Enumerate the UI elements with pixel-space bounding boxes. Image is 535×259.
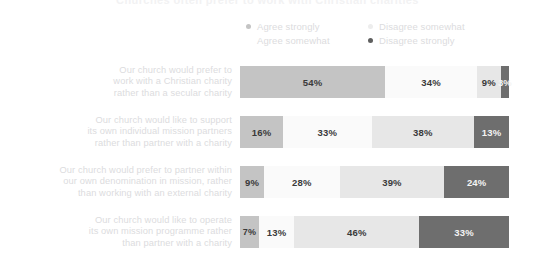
chart-row: Our church would prefer to work with a C… xyxy=(0,57,535,107)
legend-item-agree-strongly[interactable]: Agree strongly xyxy=(246,19,368,33)
bar-segment-value: 28% xyxy=(292,177,312,188)
row-label: Our church would like to support its own… xyxy=(0,115,240,150)
legend-label: Disagree somewhat xyxy=(379,21,465,32)
row-label: Our church would prefer to partner withi… xyxy=(0,165,240,200)
bar-segment-value: 38% xyxy=(413,127,433,138)
bar-segment-agree-somewhat[interactable]: 28% xyxy=(264,166,339,198)
bar-segment-disagree-strongly[interactable]: 24% xyxy=(444,166,509,198)
chart-row: Our church would like to support its own… xyxy=(0,107,535,157)
row-label-line: than working with an external charity xyxy=(0,188,232,200)
bar-segment-value: 13% xyxy=(482,127,502,138)
bar-segment-disagree-strongly[interactable]: 3% xyxy=(501,66,509,98)
bar-segment-value: 16% xyxy=(252,127,272,138)
legend-label: Agree somewhat xyxy=(257,35,330,46)
legend-dot-icon xyxy=(246,24,251,29)
legend-dot-icon xyxy=(368,38,373,43)
row-label-line: rather than a secular charity xyxy=(0,88,232,100)
bar-segment-disagree-strongly[interactable]: 33% xyxy=(419,216,509,248)
bar-segment-agree-somewhat[interactable]: 33% xyxy=(283,116,372,148)
bar-segment-agree-strongly[interactable]: 16% xyxy=(240,116,283,148)
stacked-bar: 54% 34% 9% 3% xyxy=(240,66,509,98)
stacked-bar: 16% 33% 38% 13% xyxy=(240,116,509,148)
bar-segment-value: 9% xyxy=(482,77,496,88)
chart-title: Churches often prefer to work with Chris… xyxy=(0,0,535,6)
bar-segment-disagree-somewhat[interactable]: 39% xyxy=(340,166,445,198)
legend-dot-icon xyxy=(246,38,251,43)
bar-segment-agree-strongly[interactable]: 54% xyxy=(240,66,385,98)
bar-segment-value: 33% xyxy=(318,127,338,138)
row-label-line: its own individual mission partners xyxy=(0,126,232,138)
row-label: Our church would prefer to work with a C… xyxy=(0,65,240,100)
bar-segment-disagree-strongly[interactable]: 13% xyxy=(474,116,509,148)
row-label-line: Our church would prefer to partner withi… xyxy=(0,165,232,177)
row-label-line: our own denomination in mission, rather xyxy=(0,176,232,188)
bar-segment-agree-somewhat[interactable]: 13% xyxy=(259,216,294,248)
legend-item-agree-somewhat[interactable]: Agree somewhat xyxy=(246,33,368,47)
bar-segment-agree-strongly[interactable]: 9% xyxy=(240,166,264,198)
stacked-bar: 9% 28% 39% 24% xyxy=(240,166,509,198)
row-label-line: Our church would like to operate xyxy=(0,215,232,227)
legend-label: Agree strongly xyxy=(257,21,320,32)
bar-segment-value: 33% xyxy=(454,227,474,238)
bar-segment-value: 7% xyxy=(243,227,256,237)
bar-segment-value: 13% xyxy=(267,227,287,238)
row-label-line: its own mission programme rather xyxy=(0,226,232,238)
stacked-bar: 7% 13% 46% 33% xyxy=(240,216,509,248)
legend-label: Disagree strongly xyxy=(379,35,455,46)
bar-segment-value: 39% xyxy=(382,177,402,188)
bar-segment-agree-strongly[interactable]: 7% xyxy=(240,216,259,248)
legend-dot-icon xyxy=(368,24,373,29)
chart-legend: Agree strongly Disagree somewhat Agree s… xyxy=(246,19,516,47)
bar-segment-disagree-somewhat[interactable]: 46% xyxy=(294,216,419,248)
bar-segment-value: 46% xyxy=(347,227,367,238)
bar-segment-value: 34% xyxy=(421,77,441,88)
row-label-line: work with a Christian charity xyxy=(0,76,232,88)
bar-segment-value: 3% xyxy=(498,77,512,88)
legend-item-disagree-somewhat[interactable]: Disagree somewhat xyxy=(368,19,516,33)
bar-segment-agree-somewhat[interactable]: 34% xyxy=(385,66,476,98)
bar-segment-value: 24% xyxy=(467,177,487,188)
row-label: Our church would like to operate its own… xyxy=(0,215,240,250)
chart-row: Our church would prefer to partner withi… xyxy=(0,157,535,207)
bar-segment-disagree-somewhat[interactable]: 38% xyxy=(372,116,474,148)
row-label-line: Our church would like to support xyxy=(0,115,232,127)
chart-row: Our church would like to operate its own… xyxy=(0,207,535,257)
row-label-line: than partner with a charity xyxy=(0,238,232,250)
row-label-line: rather than partner with a charity xyxy=(0,138,232,150)
row-label-line: Our church would prefer to xyxy=(0,65,232,77)
legend-item-disagree-strongly[interactable]: Disagree strongly xyxy=(368,33,516,47)
chart-plot-area: Our church would prefer to work with a C… xyxy=(0,57,535,257)
bar-segment-value: 9% xyxy=(245,177,259,188)
bar-segment-value: 54% xyxy=(303,77,323,88)
